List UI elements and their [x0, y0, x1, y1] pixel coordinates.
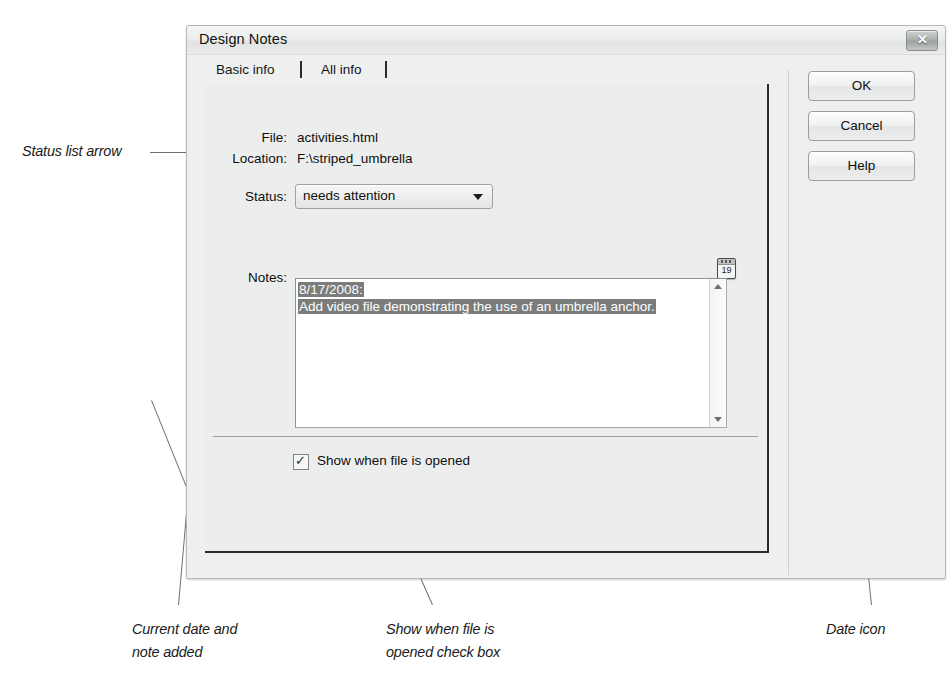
notes-text-content: 8/17/2008: Add video file demonstrating … — [298, 281, 706, 315]
file-label: File: — [215, 130, 287, 145]
screenshot-canvas: Status list arrow Current date and note … — [0, 0, 949, 684]
scroll-up-arrow-icon[interactable] — [714, 284, 722, 289]
notes-line-1: 8/17/2008: — [298, 282, 364, 297]
help-button-label: Help — [809, 152, 914, 180]
button-panel-divider — [788, 70, 789, 575]
cancel-button-label: Cancel — [809, 112, 914, 140]
annotation-show-when-file-checkbox: Show when file is opened check box — [386, 618, 500, 664]
file-value: activities.html — [297, 130, 378, 145]
dialog-title: Design Notes — [199, 31, 287, 47]
annotation-status-list-arrow: Status list arrow — [22, 140, 121, 163]
dialog-titlebar: Design Notes ✕ — [187, 26, 945, 55]
location-label: Location: — [215, 151, 287, 166]
ok-button-label: OK — [809, 72, 914, 100]
cancel-button[interactable]: Cancel — [808, 111, 915, 141]
checkmark-icon: ✓ — [295, 452, 306, 470]
annotation-date-icon: Date icon — [826, 618, 885, 641]
ok-button[interactable]: OK — [808, 71, 915, 101]
design-notes-dialog: Design Notes ✕ Basic info All info File:… — [186, 25, 946, 579]
tab-separator — [385, 61, 387, 78]
show-when-file-opened-checkbox[interactable]: ✓ — [293, 454, 309, 470]
notes-label: Notes: — [215, 270, 287, 285]
status-label: Status: — [215, 189, 287, 204]
status-selected-value: needs attention — [303, 188, 395, 203]
scroll-down-arrow-icon[interactable] — [714, 417, 722, 422]
close-icon[interactable]: ✕ — [906, 30, 938, 51]
location-value: F:\striped_umbrella — [297, 151, 413, 166]
help-button[interactable]: Help — [808, 151, 915, 181]
status-dropdown[interactable]: needs attention — [295, 184, 493, 209]
calendar-icon-day-number: 19 — [718, 264, 735, 277]
show-when-file-opened-label: Show when file is opened — [317, 453, 470, 468]
dialog-content-panel: File: activities.html Location: F:\strip… — [205, 84, 769, 553]
leader-line-status-arrow — [150, 152, 186, 153]
close-x-glyph: ✕ — [907, 30, 937, 50]
annotation-current-date-and-note: Current date and note added — [132, 618, 237, 664]
notes-line-2: Add video file demonstrating the use of … — [298, 299, 656, 314]
section-divider — [213, 436, 758, 437]
calendar-date-icon[interactable]: 19 — [717, 258, 736, 279]
chevron-down-icon[interactable] — [473, 194, 483, 200]
tab-separator — [300, 61, 302, 78]
notes-scrollbar[interactable] — [709, 279, 726, 427]
tab-all-info[interactable]: All info — [317, 60, 366, 79]
notes-textarea[interactable]: 8/17/2008: Add video file demonstrating … — [295, 278, 727, 428]
tab-basic-info[interactable]: Basic info — [212, 60, 279, 79]
